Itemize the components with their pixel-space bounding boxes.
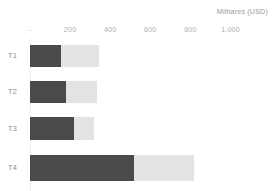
axis-title: Milhares (USD)	[217, 7, 268, 16]
bar-segment-series-2[interactable]	[61, 45, 99, 67]
bar-segment-series-2[interactable]	[74, 117, 94, 140]
category-label-t4: T4	[8, 163, 17, 172]
x-tick-label-4: 800	[184, 25, 196, 34]
bar-row: T2	[0, 81, 279, 103]
bar-segment-series-1[interactable]	[30, 45, 61, 67]
x-tick-label-0: -	[29, 25, 32, 34]
x-tick-label-5: 1.000	[221, 25, 240, 34]
x-axis-tick-labels: -2004006008001.000	[0, 25, 279, 37]
x-tick-label-3: 600	[144, 25, 156, 34]
bar-segment-series-2[interactable]	[134, 155, 194, 181]
category-label-t3: T3	[8, 124, 17, 133]
bar-row: T1	[0, 45, 279, 67]
bar-segment-series-1[interactable]	[30, 155, 134, 181]
stacked-bar-chart: Milhares (USD) -2004006008001.000 T1T2T3…	[0, 0, 279, 191]
category-label-t2: T2	[8, 87, 17, 96]
bar-track	[30, 155, 194, 181]
x-tick-label-2: 400	[104, 25, 116, 34]
bar-track	[30, 45, 99, 67]
bar-row: T4	[0, 155, 279, 181]
x-tick-label-1: 200	[64, 25, 76, 34]
bar-track	[30, 81, 97, 103]
plot-area: T1T2T3T4	[0, 38, 279, 191]
bar-row: T3	[0, 117, 279, 140]
bar-segment-series-1[interactable]	[30, 81, 66, 103]
bar-segment-series-1[interactable]	[30, 117, 74, 140]
bar-segment-series-2[interactable]	[66, 81, 97, 103]
bar-track	[30, 117, 94, 140]
category-label-t1: T1	[8, 51, 17, 60]
